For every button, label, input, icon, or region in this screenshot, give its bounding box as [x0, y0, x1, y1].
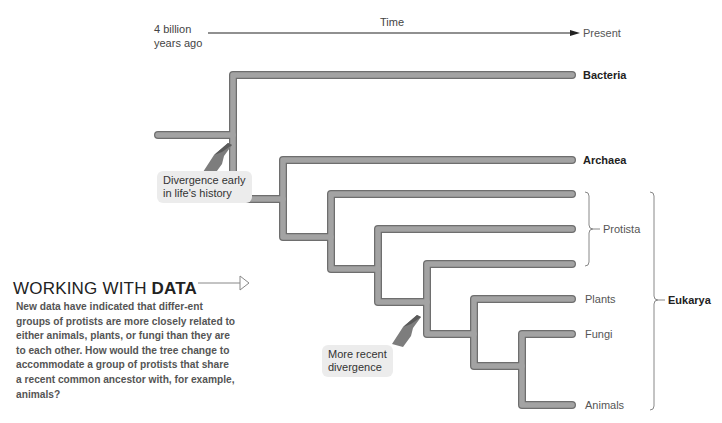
leaf-animals: Animals	[585, 399, 624, 411]
callout-recent-line1: More recent	[328, 348, 387, 361]
callout-recent-divergence: More recent divergence	[322, 345, 393, 377]
working-with-data-title: WORKING WITH DATA	[13, 279, 197, 299]
pointing-hand-icon	[392, 315, 421, 347]
group-eukarya: Eukarya	[668, 294, 711, 306]
time-arrow	[208, 30, 580, 36]
leaf-fungi: Fungi	[585, 328, 613, 340]
eukarya-bracket	[650, 192, 658, 410]
timeline-end-label: Present	[583, 27, 621, 39]
wwd-title-regular: WORKING WITH	[13, 279, 152, 298]
timeline-start-line2: years ago	[154, 36, 202, 50]
protista-bracket	[585, 192, 593, 266]
callout-early-line1: Divergence early	[163, 174, 246, 187]
callout-recent-line2: divergence	[328, 361, 387, 374]
group-protista: Protista	[603, 223, 640, 235]
leaf-bacteria: Bacteria	[583, 69, 626, 81]
timeline-start-line1: 4 billion	[154, 22, 202, 36]
wwd-title-bold: DATA	[152, 279, 198, 298]
leaf-plants: Plants	[585, 293, 616, 305]
timeline-axis-label: Time	[380, 16, 404, 28]
leaf-archaea: Archaea	[583, 154, 626, 166]
working-with-data-body: New data have indicated that differ-ent …	[16, 300, 236, 402]
timeline-start-label: 4 billion years ago	[154, 22, 202, 50]
callout-early-divergence: Divergence early in life's history	[157, 171, 252, 203]
callout-early-line2: in life's history	[163, 187, 246, 200]
working-with-data-arrow	[198, 276, 249, 290]
